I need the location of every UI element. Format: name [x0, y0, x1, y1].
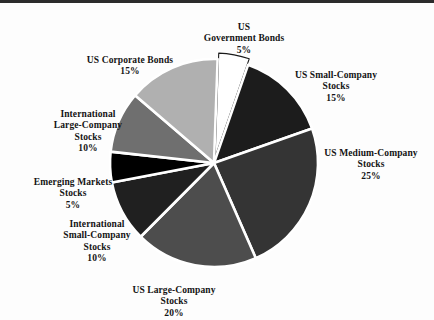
slice-label-text: US Small-Company Stocks — [295, 70, 377, 92]
slice-label-us-medium-company-stocks: US Medium-Company Stocks 25% — [308, 136, 434, 194]
slice-label-us-small-company-stocks: US Small-Company Stocks 15% — [266, 58, 406, 116]
slice-label-percent: 10% — [32, 253, 162, 265]
chart-page: US Government Bonds 5% US Small-Company … — [0, 0, 434, 320]
slice-label-percent: 5% — [6, 200, 140, 212]
slice-label-emerging-markets-stocks: Emerging Markets Stocks 5% — [6, 165, 140, 223]
slice-label-international-large-company-stocks: International Large-Company Stocks 10% — [22, 97, 154, 166]
slice-label-percent: 25% — [308, 171, 434, 183]
slice-label-us-large-company-stocks: US Large-Company Stocks 20% — [98, 273, 250, 320]
slice-label-percent: 10% — [22, 143, 154, 155]
slice-label-text: US Medium-Company Stocks — [324, 148, 417, 170]
pie-chart: US Government Bonds 5% US Small-Company … — [0, 0, 434, 320]
slice-label-text: International Small-Company Stocks — [63, 219, 130, 252]
slice-label-percent: 15% — [56, 66, 204, 78]
slice-label-text: US Corporate Bonds — [87, 55, 173, 65]
slice-label-text: US Government Bonds — [204, 22, 285, 44]
slice-label-percent: 15% — [266, 93, 406, 105]
slice-label-text: International Large-Company Stocks — [54, 109, 122, 142]
slice-label-us-corporate-bonds: US Corporate Bonds 15% — [56, 43, 204, 89]
slice-label-text: US Large-Company Stocks — [132, 285, 215, 307]
slice-label-text: Emerging Markets Stocks — [34, 177, 112, 199]
slice-label-percent: 20% — [98, 308, 250, 320]
